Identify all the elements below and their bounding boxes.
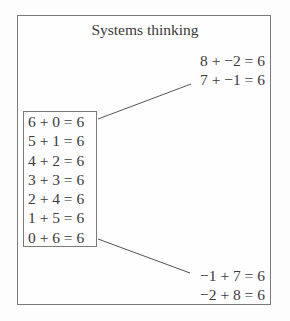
connector-line-bottom — [98, 239, 190, 273]
connector-lines — [0, 0, 290, 321]
connector-line-top — [98, 84, 191, 119]
